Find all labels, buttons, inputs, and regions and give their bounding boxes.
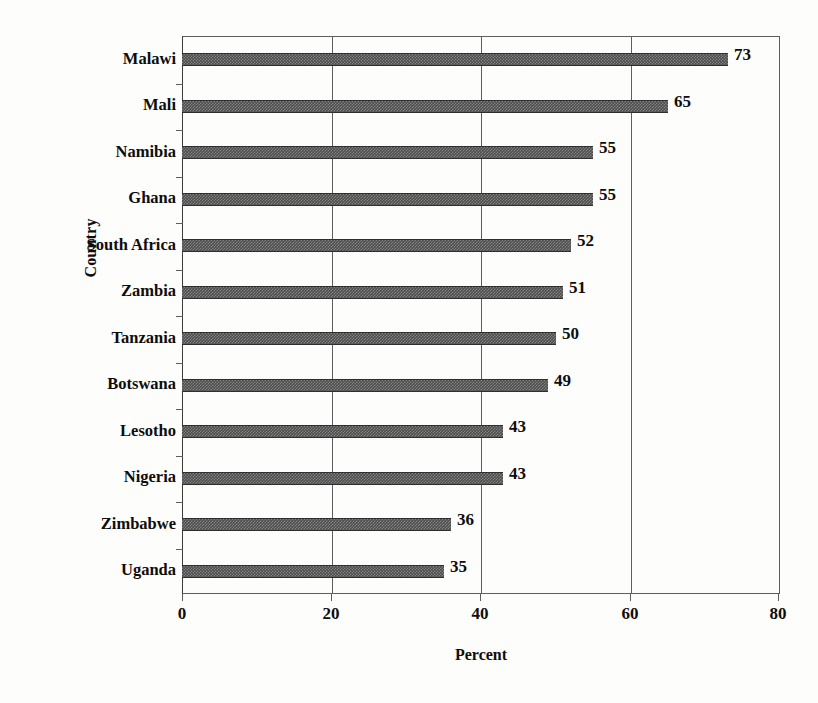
x-axis: 0 20 40 60 80 <box>182 594 780 634</box>
category-label: Ghana <box>50 189 176 207</box>
bar-value-label: 35 <box>450 556 467 578</box>
category-label: Lesotho <box>50 422 176 440</box>
category-label: Zimbabwe <box>50 515 176 533</box>
bar-row: 73 <box>182 36 818 83</box>
x-tick-mark <box>630 594 631 601</box>
bar[interactable] <box>182 518 451 531</box>
bar[interactable] <box>182 239 571 252</box>
bar-row: 36 <box>182 501 818 548</box>
category-axis-labels: Malawi Mali Namibia Ghana South Africa Z… <box>50 36 176 594</box>
bar-value-label: 65 <box>674 91 691 113</box>
bar-value-label: 55 <box>599 137 616 159</box>
bar-row: 55 <box>182 176 818 223</box>
category-label: Mali <box>50 96 176 114</box>
category-label: Uganda <box>50 561 176 579</box>
category-label: Nigeria <box>50 468 176 486</box>
bar-value-label: 36 <box>457 509 474 531</box>
bar-value-label: 49 <box>554 370 571 392</box>
bar[interactable] <box>182 286 563 299</box>
bar-value-label: 55 <box>599 184 616 206</box>
bar-row: 43 <box>182 408 818 455</box>
bar[interactable] <box>182 332 556 345</box>
bar[interactable] <box>182 53 728 66</box>
bar-row: 51 <box>182 269 818 316</box>
category-label: Namibia <box>50 143 176 161</box>
bar-row: 52 <box>182 222 818 269</box>
x-tick-label: 40 <box>450 604 510 624</box>
bar[interactable] <box>182 100 668 113</box>
x-tick-mark <box>182 594 183 601</box>
bar-value-label: 43 <box>509 416 526 438</box>
bar-row: 50 <box>182 315 818 362</box>
x-tick-mark <box>331 594 332 601</box>
bar-value-label: 43 <box>509 463 526 485</box>
bar[interactable] <box>182 379 548 392</box>
bar-row: 55 <box>182 129 818 176</box>
category-label: Tanzania <box>50 329 176 347</box>
bar-row: 43 <box>182 455 818 502</box>
bar-value-label: 73 <box>734 44 751 66</box>
bar-row: 49 <box>182 362 818 409</box>
x-axis-title: Percent <box>182 646 780 664</box>
category-label: Zambia <box>50 282 176 300</box>
x-tick-label: 0 <box>152 604 212 624</box>
x-tick-mark <box>778 594 779 601</box>
bar-chart-figure: Country Malawi Mali Namibia Ghana South … <box>0 0 818 703</box>
category-label: Botswana <box>50 375 176 393</box>
bar[interactable] <box>182 425 503 438</box>
bars-layer: 73 65 55 55 52 51 50 49 <box>182 36 818 594</box>
bar[interactable] <box>182 472 503 485</box>
category-label: Malawi <box>50 50 176 68</box>
x-tick-mark <box>480 594 481 601</box>
bar[interactable] <box>182 565 444 578</box>
x-tick-label: 60 <box>600 604 660 624</box>
bar-row: 35 <box>182 548 818 595</box>
bar-value-label: 51 <box>569 277 586 299</box>
x-tick-label: 20 <box>301 604 361 624</box>
x-tick-label: 80 <box>748 604 808 624</box>
bar-value-label: 52 <box>577 230 594 252</box>
bar-row: 65 <box>182 83 818 130</box>
bar[interactable] <box>182 146 593 159</box>
bar-value-label: 50 <box>562 323 579 345</box>
category-label: South Africa <box>50 236 176 254</box>
bar[interactable] <box>182 193 593 206</box>
